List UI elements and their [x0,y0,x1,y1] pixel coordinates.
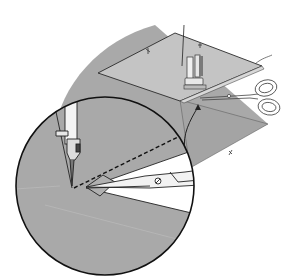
sewing-illustration [0,0,293,280]
illustration-stage: Sewing machine presser foot stitching fa… [0,0,293,280]
trailing-thread [255,55,272,64]
presser-foot-icon [184,55,206,89]
